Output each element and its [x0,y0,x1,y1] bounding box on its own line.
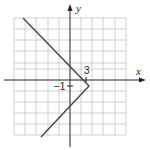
y-axis-label: y [76,3,81,14]
x-axis-label: x [136,66,141,77]
v-graph [23,18,89,137]
graph [0,0,150,150]
x-axis-arrow-icon [139,78,146,83]
y-axis-arrow-icon [68,4,73,11]
tick-label-x: 3 [84,66,90,76]
tick-label-y: −1 [54,82,65,92]
